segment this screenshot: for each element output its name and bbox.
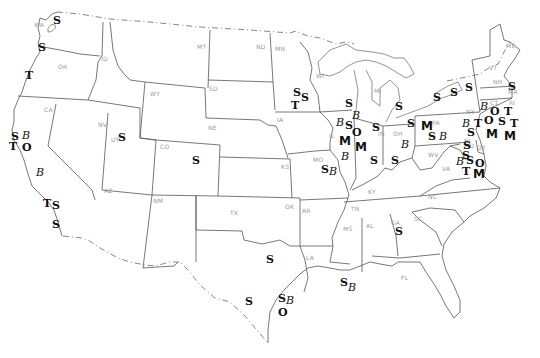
- state-label-vt: VT: [489, 64, 497, 71]
- map-symbol-b: B: [286, 295, 294, 306]
- state-label-wi: WI: [316, 72, 324, 79]
- state-label-nv: NV: [98, 121, 107, 128]
- state-label-wv: WV: [428, 151, 438, 158]
- map-symbol-s: S: [245, 296, 253, 307]
- state-label-nd: ND: [256, 43, 266, 50]
- state-label-me: ME: [506, 42, 515, 49]
- state-label-ar: AR: [302, 207, 311, 214]
- map-symbol-s: S: [52, 219, 60, 230]
- map-symbol-b: B: [341, 151, 349, 162]
- state-label-va: VA: [442, 165, 450, 172]
- state-label-ne: NE: [208, 124, 217, 131]
- map-symbol-s: S: [321, 164, 329, 175]
- map-symbol-b: B: [480, 101, 488, 112]
- state-label-mn: MN: [275, 45, 285, 52]
- atlantic-coast: [268, 42, 520, 343]
- map-symbol-m: M: [504, 130, 516, 142]
- state-label-ky: KY: [368, 188, 376, 195]
- map-symbol-s: S: [428, 131, 436, 142]
- state-label-fl: FL: [401, 274, 408, 281]
- canada-border-east: [447, 42, 510, 81]
- map-symbol-b: B: [352, 110, 360, 121]
- map-symbol-o: O: [484, 115, 494, 126]
- state-label-az: AZ: [104, 187, 113, 194]
- state-label-nc: NC: [428, 193, 437, 200]
- map-symbol-s: S: [498, 116, 506, 127]
- state-label-al: AL: [366, 222, 374, 229]
- map-symbol-s: S: [52, 200, 60, 211]
- state-label-il: IL: [329, 132, 335, 139]
- state-label-mo: MO: [313, 156, 323, 163]
- map-symbol-o: O: [22, 142, 32, 153]
- map-symbol-t: T: [291, 100, 299, 111]
- map-symbol-s: S: [293, 87, 301, 98]
- map-symbol-t: T: [25, 70, 33, 81]
- map-symbol-s: S: [370, 155, 378, 166]
- state-label-mt: MT: [197, 43, 206, 50]
- map-symbol-m: M: [339, 135, 351, 147]
- map-symbol-o: O: [352, 127, 362, 138]
- canada-border: [57, 12, 354, 44]
- map-symbol-b: B: [348, 282, 356, 293]
- state-label-wy: WY: [150, 90, 160, 97]
- map-symbol-s: S: [467, 127, 475, 138]
- map-symbol-s: S: [266, 254, 274, 265]
- map-symbol-s: S: [395, 226, 403, 237]
- map-symbol-s: S: [301, 92, 309, 103]
- map-symbol-t: T: [510, 118, 518, 129]
- map-symbol-o: O: [278, 307, 288, 318]
- state-label-la: LA: [306, 254, 314, 261]
- map-symbol-s: S: [192, 155, 200, 166]
- map-symbol-b: B: [22, 130, 30, 141]
- map-symbol-s: S: [38, 42, 46, 53]
- map-symbol-t: T: [43, 198, 51, 209]
- state-label-ks: KS: [281, 163, 289, 170]
- map-symbol-s: S: [465, 82, 473, 93]
- map-symbol-s: S: [508, 81, 516, 92]
- state-label-ia: IA: [277, 116, 283, 123]
- state-label-tn: TN: [351, 205, 360, 212]
- state-boundaries: [18, 22, 515, 292]
- map-symbol-s: S: [340, 277, 348, 288]
- great-lakes: [318, 44, 462, 122]
- map-symbol-b: B: [401, 139, 409, 150]
- map-symbol-t: T: [474, 118, 482, 129]
- state-label-sd: SD: [209, 85, 218, 92]
- state-label-wa: WA: [34, 21, 44, 28]
- state-label-ms: MS: [343, 225, 352, 232]
- state-label-ca: CA: [44, 106, 53, 113]
- map-symbol-s: S: [278, 293, 286, 304]
- state-label-nm: NM: [153, 197, 163, 204]
- state-label-tx: TX: [230, 209, 238, 216]
- state-label-oh: OH: [393, 130, 403, 137]
- map-symbol-s: S: [391, 155, 399, 166]
- map-symbol-b: B: [336, 117, 344, 128]
- map-symbol-s: S: [345, 98, 353, 109]
- state-label-sc: SC: [414, 215, 422, 222]
- map-symbol-s: S: [433, 92, 441, 103]
- state-label-ny: NY: [466, 108, 475, 115]
- map-symbol-s: S: [118, 132, 126, 143]
- state-label-nh: NH: [493, 78, 502, 85]
- state-label-co: CO: [160, 143, 169, 150]
- map-symbol-s: S: [450, 87, 458, 98]
- map-symbol-t: T: [462, 166, 470, 177]
- map-symbol-s: S: [395, 101, 403, 112]
- map-symbol-b: B: [329, 166, 337, 177]
- state-label-mi: MI: [374, 87, 381, 94]
- map-symbol-m: M: [473, 168, 485, 180]
- map-symbol-s: S: [407, 118, 415, 129]
- mexico-border: [63, 236, 268, 343]
- map-symbol-s: S: [372, 122, 380, 133]
- state-label-pa: PA: [432, 119, 440, 126]
- map-symbol-b: B: [36, 167, 44, 178]
- state-label-or: OR: [58, 63, 67, 70]
- map-symbol-m: M: [486, 128, 498, 140]
- map-symbol-s: S: [53, 15, 61, 26]
- state-label-de: DE: [477, 144, 486, 151]
- map-symbol-t: T: [9, 141, 17, 152]
- map-symbol-m: M: [355, 141, 367, 153]
- state-label-id: ID: [101, 55, 108, 62]
- state-label-ok: OK: [285, 203, 294, 210]
- map-symbol-b: B: [439, 131, 447, 142]
